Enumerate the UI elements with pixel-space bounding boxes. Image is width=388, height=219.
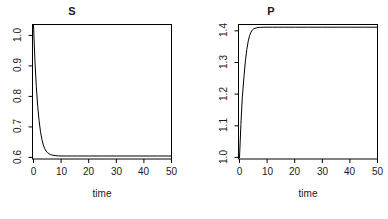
x-ticks-p	[240, 159, 378, 163]
xaxis-title-s: time	[82, 188, 122, 199]
axes-box-p	[239, 25, 378, 160]
ytick-label-p-3: 1.3	[219, 51, 229, 73]
plot-area-s	[0, 0, 194, 219]
x-ticks-s	[34, 159, 172, 163]
y-ticks-s	[29, 35, 33, 157]
data-line-p	[240, 27, 378, 158]
ytick-label-p-1: 1.1	[219, 114, 229, 136]
ytick-label-s-2: 0.8	[13, 85, 23, 107]
ytick-label-p-2: 1.2	[219, 83, 229, 105]
xtick-label-p-5: 50	[366, 167, 388, 177]
xtick-label-s-4: 40	[132, 167, 155, 177]
axes-box-s	[33, 25, 172, 160]
ytick-label-s-0: 0.6	[13, 146, 23, 168]
plot-panel-s: S 0.6	[0, 0, 194, 219]
xaxis-title-p: time	[288, 188, 328, 199]
ytick-label-p-4: 1.4	[219, 19, 229, 41]
ytick-label-s-4: 1.0	[13, 24, 23, 46]
xtick-label-s-3: 30	[105, 167, 128, 177]
xtick-label-s-1: 10	[50, 167, 73, 177]
figure-canvas: S 0.6	[0, 0, 388, 219]
xtick-label-s-5: 50	[160, 167, 183, 177]
xtick-label-s-2: 20	[77, 167, 100, 177]
xtick-label-p-3: 30	[311, 167, 334, 177]
plot-panel-p: P 1.0	[194, 0, 388, 219]
y-ticks-p	[235, 31, 239, 158]
xtick-label-s-0: 0	[22, 167, 45, 177]
ytick-label-s-1: 0.7	[13, 115, 23, 137]
xtick-label-p-2: 20	[283, 167, 306, 177]
xtick-label-p-0: 0	[228, 167, 251, 177]
xtick-label-p-4: 40	[338, 167, 361, 177]
xtick-label-p-1: 10	[256, 167, 279, 177]
ytick-label-s-3: 0.9	[13, 54, 23, 76]
ytick-label-p-0: 1.0	[219, 146, 229, 168]
data-line-s	[34, 25, 172, 156]
